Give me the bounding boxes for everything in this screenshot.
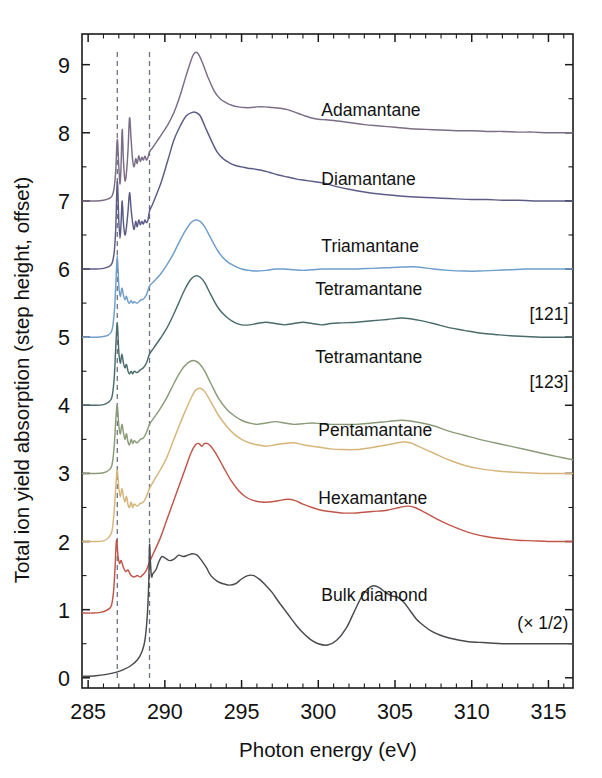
x-axis-title: Photon energy (eV) bbox=[239, 738, 417, 761]
series-label-tetramantane-121: Tetramantane bbox=[315, 279, 422, 299]
x-tick-label: 285 bbox=[70, 700, 106, 724]
series-label-adamantane: Adamantane bbox=[321, 100, 420, 120]
y-tick-label: 0 bbox=[58, 667, 70, 691]
y-tick-label: 4 bbox=[58, 394, 70, 418]
y-tick-label: 1 bbox=[58, 599, 70, 623]
spectrum-curve-tetramantane-123 bbox=[82, 360, 573, 473]
series-labels: AdamantaneDiamantaneTriamantaneTetramant… bbox=[315, 100, 568, 633]
series-label-triamantane: Triamantane bbox=[321, 236, 419, 256]
series-label-pentamantane: Pentamantane bbox=[318, 420, 432, 440]
xanes-spectra-chart: 285290295300305310315 0123456789 Adamant… bbox=[0, 0, 602, 778]
x-tick-label: 295 bbox=[224, 700, 260, 724]
spectra-figure: 285290295300305310315 0123456789 Adamant… bbox=[0, 0, 602, 778]
x-tick-label: 315 bbox=[531, 700, 567, 724]
y-tick-label: 7 bbox=[58, 190, 70, 214]
series-label-hexamantane: Hexamantane bbox=[318, 488, 427, 508]
x-tick-labels: 285290295300305310315 bbox=[70, 700, 566, 724]
spectrum-curve-bulk-diamond bbox=[82, 544, 573, 676]
x-tick-label: 290 bbox=[147, 700, 183, 724]
x-tick-label: 305 bbox=[377, 700, 413, 724]
series-label-diamantane: Diamantane bbox=[321, 169, 415, 189]
y-tick-label: 6 bbox=[58, 258, 70, 282]
y-tick-label: 2 bbox=[58, 531, 70, 555]
series-label-tetramantane-121-sub: [121] bbox=[529, 304, 568, 324]
series-label-bulk-diamond: Bulk diamond bbox=[321, 585, 427, 605]
y-tick-label: 8 bbox=[58, 122, 70, 146]
y-tick-label: 5 bbox=[58, 326, 70, 350]
series-label-bulk-diamond-sub: (× 1/2) bbox=[517, 613, 568, 633]
spectrum-curve-pentamantane bbox=[82, 388, 573, 541]
y-tick-labels: 0123456789 bbox=[58, 54, 70, 691]
series-label-tetramantane-123-sub: [123] bbox=[529, 372, 568, 392]
x-tick-label: 300 bbox=[300, 700, 336, 724]
y-axis-title: Total ion yield absorption (step height,… bbox=[10, 177, 33, 583]
y-tick-label: 9 bbox=[58, 54, 70, 78]
series-label-tetramantane-123: Tetramantane bbox=[315, 347, 422, 367]
y-tick-label: 3 bbox=[58, 462, 70, 486]
x-tick-label: 310 bbox=[454, 700, 490, 724]
